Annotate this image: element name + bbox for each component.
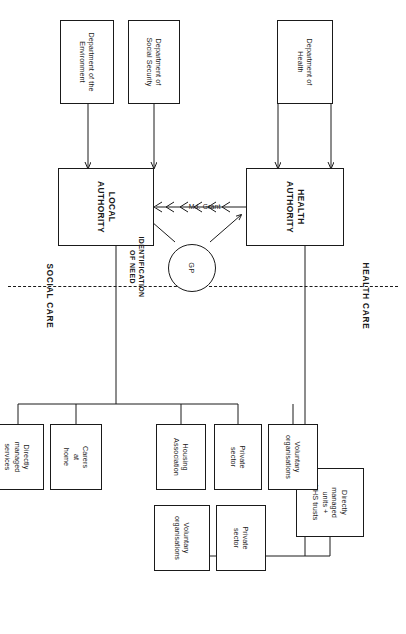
zone-label-social-care: SOCIAL CARE <box>43 236 54 356</box>
carers-at-home-box[interactable]: Carers at home <box>50 424 102 490</box>
dept-environment-label: Department of the Environment <box>78 32 97 91</box>
dept-environment-box[interactable]: Department of the Environment <box>60 20 114 104</box>
directly-managed-services-box[interactable]: Directly managed services <box>0 424 44 490</box>
voluntary-organisations-commissioned-label: Voluntary organisations <box>284 435 303 479</box>
housing-association-label: Housing Association <box>172 438 191 476</box>
directly-managed-services-label: Directly managed services <box>3 442 32 473</box>
identification-of-need-label: IDENTIFICATION OF NEED <box>128 232 146 302</box>
housing-association-box[interactable]: Housing Association <box>156 424 206 490</box>
voluntary-organisations-provider-label: Voluntary organisations <box>173 516 192 560</box>
gp-label: GP <box>188 262 197 273</box>
private-sector-commissioned-box[interactable]: Private sector <box>214 424 262 490</box>
local-authority-label: LOCAL AUTHORITY <box>95 181 117 233</box>
dept-social-security-box[interactable]: Department of Social Security <box>128 20 180 104</box>
private-sector-provider-box[interactable]: Private sector <box>216 505 266 571</box>
dept-social-security-label: Department of Social Security <box>145 37 164 86</box>
health-authority-label: HEALTH AUTHORITY <box>284 181 306 233</box>
dept-health-box[interactable]: Department of Health <box>277 20 333 104</box>
private-sector-commissioned-label: Private sector <box>229 445 248 468</box>
voluntary-organisations-provider-box[interactable]: Voluntary organisations <box>154 505 210 571</box>
private-sector-provider-label: Private sector <box>232 526 251 549</box>
mi-grant-label: M.I. Grant <box>176 203 234 212</box>
health-authority-box[interactable]: HEALTH AUTHORITY <box>246 168 344 246</box>
zone-label-health-care: HEALTH CARE <box>359 236 370 356</box>
diagram-canvas: HEALTH CARE SOCIAL CARE Department of He… <box>0 0 406 634</box>
voluntary-organisations-commissioned-box[interactable]: Voluntary organisations <box>268 424 318 490</box>
dept-health-label: Department of Health <box>296 39 315 86</box>
carers-at-home-label: Carers at home <box>62 446 91 468</box>
gp-node[interactable]: GP <box>168 244 216 292</box>
